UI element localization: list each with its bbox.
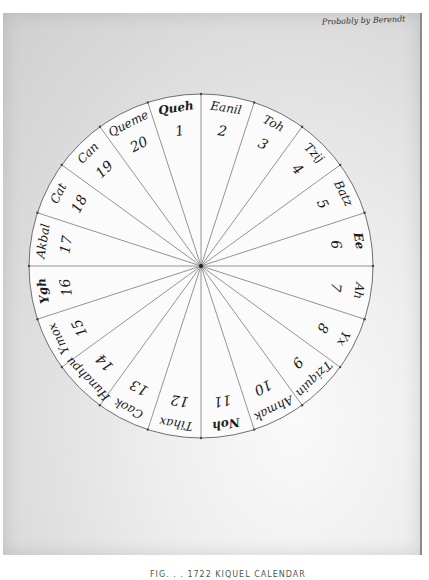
calendar-wheel: Queh1Eanil2Toh3Tzij4Batz5Ee6Ah7Yx8Tziqui… (0, 0, 429, 580)
rim-tick (61, 164, 63, 166)
day-name: Ee (351, 231, 368, 251)
rim-tick (253, 428, 255, 430)
rim-tick (200, 93, 202, 95)
rim-tick (339, 164, 341, 166)
rim-tick (363, 318, 365, 320)
day-name: Ah (351, 281, 368, 300)
rim-tick (301, 404, 303, 406)
rim-tick (372, 265, 374, 267)
day-number: 12 (169, 392, 189, 411)
rim-tick (28, 265, 30, 267)
rim-tick (36, 318, 38, 320)
rim-tick (99, 404, 101, 406)
day-number: 11 (212, 392, 232, 411)
rim-tick (147, 428, 149, 430)
rim-tick (253, 101, 255, 103)
rim-tick (36, 212, 38, 214)
rim-tick (200, 437, 202, 439)
day-number: 17 (56, 234, 75, 254)
rim-tick (61, 366, 63, 368)
figure-caption: FIG. . . 1722 KIQUEL CALENDAR (150, 570, 306, 579)
rim-tick (339, 366, 341, 368)
rim-tick (147, 101, 149, 103)
rim-tick (301, 126, 303, 128)
day-number: 16 (56, 277, 75, 297)
wheel-center (199, 264, 203, 268)
rim-tick (363, 212, 365, 214)
rim-tick (99, 126, 101, 128)
